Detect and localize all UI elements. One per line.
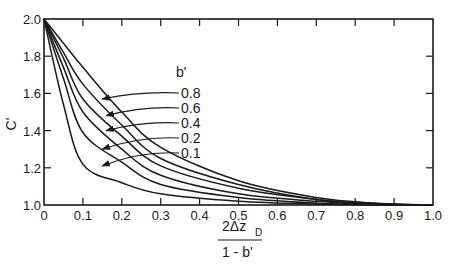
y-tick-label: 1.2 [23, 161, 41, 176]
y-axis: 1.01.21.41.61.82.0 [23, 12, 433, 213]
y-tick-label: 2.0 [23, 12, 41, 27]
x-tick-label: 0.2 [113, 208, 131, 223]
x-axis-title-numerator: 2Δz [222, 218, 246, 234]
x-axis-title-subscript: D [255, 227, 262, 238]
legend-arrow-0.4 [106, 123, 179, 131]
x-tick-label: 0.4 [191, 208, 209, 223]
chart: 00.10.20.30.40.50.60.70.80.91.0 1.01.21.… [0, 0, 450, 267]
x-tick-label: 0.9 [385, 208, 403, 223]
y-tick-label: 1.8 [23, 49, 41, 64]
legend-label-0.6: 0.6 [181, 100, 201, 116]
legend-label-0.4: 0.4 [181, 115, 201, 131]
curves [44, 19, 433, 205]
curve-b-unlabeled [44, 19, 433, 205]
x-tick-label: 0.7 [307, 208, 325, 223]
x-tick-label: 0.6 [268, 208, 286, 223]
y-tick-label: 1.4 [23, 124, 41, 139]
x-tick-label: 0 [40, 208, 47, 223]
x-axis-title-denominator: 1 - b' [222, 244, 253, 260]
x-axis: 00.10.20.30.40.50.60.70.80.91.0 [40, 19, 442, 223]
legend-title: b' [176, 64, 186, 80]
legend-label-0.2: 0.2 [181, 130, 201, 146]
legend-label-0.1: 0.1 [181, 145, 201, 161]
y-tick-label: 1.0 [23, 198, 41, 213]
legend: b' 0.80.60.40.20.1 [102, 64, 200, 166]
x-tick-label: 0.3 [152, 208, 170, 223]
y-axis-title: C' [3, 118, 19, 131]
legend-arrow-0.6 [106, 108, 179, 116]
x-tick-label: 1.0 [424, 208, 442, 223]
x-tick-label: 0.8 [346, 208, 364, 223]
legend-label-0.8: 0.8 [181, 85, 201, 101]
legend-arrow-0.8 [102, 93, 179, 99]
y-tick-label: 1.6 [23, 86, 41, 101]
x-tick-label: 0.1 [74, 208, 92, 223]
x-axis-title: 2Δz D 1 - b' [218, 218, 262, 260]
